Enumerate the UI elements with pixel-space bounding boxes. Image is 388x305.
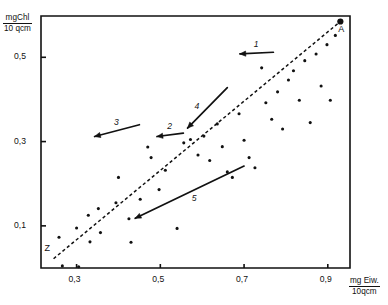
x-tick-label: 0,5: [152, 274, 164, 284]
y-tick-label: 0,5: [14, 51, 26, 61]
arrow-head-2: [157, 133, 163, 138]
x-tick-label: 0,7: [236, 274, 248, 284]
data-point: [87, 214, 90, 217]
data-point: [77, 265, 80, 268]
data-point: [117, 176, 120, 179]
data-point: [88, 240, 91, 243]
x-axis-label: mg Eiw. 10qcm: [349, 277, 380, 296]
data-point: [325, 43, 328, 46]
data-point: [139, 198, 142, 201]
data-point: [146, 146, 149, 149]
y-tick-label: 0,3: [14, 136, 26, 146]
plot-border: [41, 16, 350, 268]
data-point: [303, 59, 306, 62]
arrow-label-3: 3: [114, 117, 119, 127]
scatter-plot-canvas: [0, 0, 388, 305]
arrow-shaft-5: [135, 166, 244, 218]
figure-container: mgChl 10 qcm mg Eiw. 10qcm 0,10,30,50,30…: [0, 0, 388, 305]
data-point: [127, 217, 130, 220]
data-point: [99, 231, 102, 234]
data-point: [298, 99, 301, 102]
x-axis-label-denominator: 10qcm: [349, 286, 380, 296]
data-point: [176, 227, 179, 230]
data-point: [287, 79, 290, 82]
data-point: [334, 34, 337, 37]
data-point: [216, 122, 219, 125]
y-axis-label-numerator: mgChl: [3, 14, 32, 23]
data-point: [221, 145, 224, 148]
data-point: [248, 156, 251, 159]
data-point: [158, 188, 161, 191]
data-point: [208, 159, 211, 162]
reference-line-ZA: [54, 21, 341, 258]
endpoint-label-A: A: [338, 24, 344, 34]
arrow-label-5: 5: [192, 193, 197, 203]
arrow-head-3: [95, 133, 101, 138]
data-point: [202, 135, 205, 138]
data-point: [292, 69, 295, 72]
annotation-arrows: [95, 51, 274, 218]
arrow-head-1: [240, 51, 246, 56]
y-axis-label: mgChl 10 qcm: [3, 14, 32, 33]
x-tick-label: 0,3: [69, 274, 81, 284]
plot-frame: [41, 16, 350, 268]
data-point: [57, 236, 60, 239]
data-point: [226, 170, 229, 173]
data-point: [164, 169, 167, 172]
data-point: [264, 101, 267, 104]
data-point: [329, 99, 332, 102]
y-tick-label: 0,1: [14, 220, 26, 230]
data-point: [309, 121, 312, 124]
data-point: [75, 226, 78, 229]
arrow-label-4: 4: [194, 101, 199, 111]
data-point: [61, 264, 64, 267]
data-point: [253, 166, 256, 169]
data-point: [260, 66, 263, 69]
data-point: [270, 118, 273, 121]
arrow-head-5: [135, 213, 141, 218]
x-axis-label-numerator: mg Eiw.: [349, 277, 380, 286]
data-point: [97, 207, 100, 210]
data-point: [231, 176, 234, 179]
data-point: [150, 156, 153, 159]
data-point: [189, 138, 192, 141]
arrow-label-1: 1: [254, 39, 259, 49]
data-point: [196, 154, 199, 157]
data-point: [320, 84, 323, 87]
arrow-label-2: 2: [167, 121, 172, 131]
data-point: [243, 139, 246, 142]
data-point: [237, 112, 240, 115]
axis-ticks: [41, 57, 328, 268]
data-point: [129, 241, 132, 244]
reference-line: [54, 21, 341, 258]
data-point: [114, 201, 117, 204]
data-point: [281, 127, 284, 130]
data-point: [182, 141, 185, 144]
data-point: [315, 52, 318, 55]
x-tick-label: 0,9: [320, 274, 332, 284]
y-axis-label-denominator: 10 qcm: [3, 23, 32, 33]
data-point: [276, 90, 279, 93]
endpoint-label-Z: Z: [45, 243, 51, 253]
data-points: [57, 18, 343, 268]
